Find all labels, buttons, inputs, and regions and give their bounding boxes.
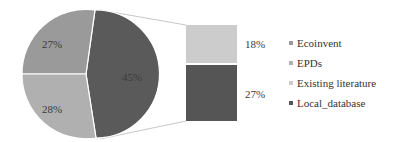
legend-item-ecoinvent: Ecoinvent [289,37,342,49]
legend-item-local-database: Local_database [289,97,365,109]
legend-label: Ecoinvent [297,37,342,49]
pie-label-other: 45% [122,71,142,83]
bar-segment-local [186,65,237,121]
legend-swatch-icon [289,41,293,45]
bar-segment-literature [186,25,237,63]
legend-label: Existing literature [297,77,376,89]
legend-label: EPDs [297,57,322,69]
pie-of-bar-chart: 27% 28% 45% 18% 27% [0,0,407,142]
pie-label-ecoinvent: 27% [42,38,62,50]
legend-item-epds: EPDs [289,57,322,69]
legend-swatch-icon [289,61,293,65]
legend-swatch-icon [289,101,293,105]
pie-label-epds: 28% [42,103,62,115]
bar-label-literature: 18% [245,38,265,50]
legend-swatch-icon [289,81,293,85]
bar-label-local: 27% [245,88,265,100]
legend-label: Local_database [297,97,365,109]
legend-item-existing-literature: Existing literature [289,77,376,89]
